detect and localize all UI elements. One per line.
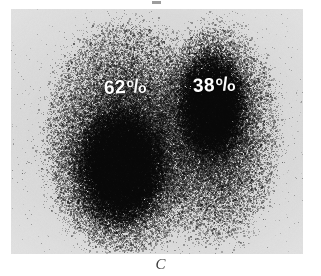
percent-sign-icon: o/o [215,73,236,95]
figure-caption-label: C [0,256,321,273]
left-lung-perfusion-percent: 62o/o [104,76,148,97]
percent-sign-icon: o/o [126,75,147,97]
right-lung-perfusion-percent: 38o/o [193,74,237,95]
left-lung-percent-value: 62 [103,76,126,98]
figure-root: 62o/o 38o/o C [0,0,321,276]
scintigram-plate: 62o/o 38o/o [11,9,303,254]
film-grain-overlay [11,9,303,254]
right-lung-percent-value: 38 [192,74,215,96]
film-edge-artifact [152,1,161,4]
